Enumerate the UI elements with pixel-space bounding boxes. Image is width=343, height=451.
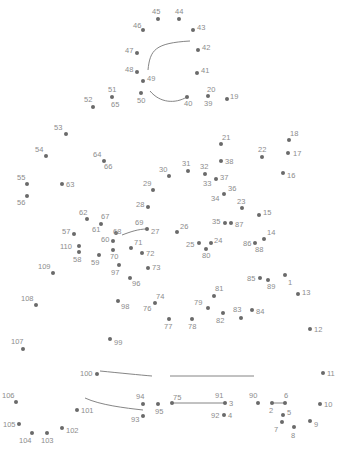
dot-109[interactable] <box>51 271 55 275</box>
dot-100[interactable] <box>95 372 99 376</box>
dot-29[interactable] <box>151 188 155 192</box>
dot-98[interactable] <box>116 299 120 303</box>
dot-22[interactable] <box>260 155 264 159</box>
dot-2[interactable] <box>270 401 274 405</box>
dot-94[interactable] <box>141 402 145 406</box>
dot-label-44: 44 <box>175 8 183 16</box>
dot-label-67: 67 <box>101 213 109 221</box>
dot-108[interactable] <box>34 303 38 307</box>
dot-3[interactable] <box>223 401 227 405</box>
dot-103[interactable] <box>45 431 49 435</box>
dot-38[interactable] <box>219 159 223 163</box>
dot-102[interactable] <box>60 426 64 430</box>
dot-24[interactable] <box>209 241 213 245</box>
dot-77[interactable] <box>167 317 171 321</box>
dot-87[interactable] <box>229 221 233 225</box>
dot-73[interactable] <box>146 266 150 270</box>
dot-16[interactable] <box>281 171 285 175</box>
dot-9[interactable] <box>308 419 312 423</box>
dot-5[interactable] <box>281 413 285 417</box>
dot-62[interactable] <box>85 217 89 221</box>
dot-4[interactable] <box>222 413 226 417</box>
dot-59[interactable] <box>97 253 101 257</box>
dot-20[interactable] <box>206 94 210 98</box>
dot-41[interactable] <box>195 71 199 75</box>
dot-19[interactable] <box>225 97 229 101</box>
dot-85[interactable] <box>258 276 262 280</box>
dot-1[interactable] <box>283 273 287 277</box>
dot-10[interactable] <box>318 402 322 406</box>
dot-79[interactable] <box>206 306 210 310</box>
dot-60[interactable] <box>111 239 115 243</box>
dot-6[interactable] <box>283 401 287 405</box>
dot-83[interactable] <box>239 316 243 320</box>
dot-57[interactable] <box>72 232 76 236</box>
dot-34[interactable] <box>222 192 226 196</box>
dot-label-23: 23 <box>237 198 245 206</box>
dot-97[interactable] <box>117 263 121 267</box>
dot-55[interactable] <box>25 182 29 186</box>
dot-42[interactable] <box>196 48 200 52</box>
dot-110[interactable] <box>77 244 81 248</box>
dot-107[interactable] <box>21 347 25 351</box>
dot-95[interactable] <box>156 402 160 406</box>
dot-7[interactable] <box>280 420 284 424</box>
dot-17[interactable] <box>286 151 290 155</box>
dot-74[interactable] <box>153 301 157 305</box>
dot-104[interactable] <box>30 431 34 435</box>
dot-18[interactable] <box>287 138 291 142</box>
dot-label-82: 82 <box>216 317 224 325</box>
dot-72[interactable] <box>140 251 144 255</box>
dot-49[interactable] <box>141 79 145 83</box>
dot-47[interactable] <box>135 51 139 55</box>
dot-label-11: 11 <box>327 370 335 378</box>
dot-99[interactable] <box>108 337 112 341</box>
dot-13[interactable] <box>296 292 300 296</box>
dot-52[interactable] <box>91 105 95 109</box>
dot-33[interactable] <box>214 177 218 181</box>
dot-21[interactable] <box>219 142 223 146</box>
dot-56[interactable] <box>25 194 29 198</box>
dot-105[interactable] <box>17 422 21 426</box>
dot-101[interactable] <box>75 408 79 412</box>
dot-label-86: 86 <box>243 240 251 248</box>
dot-44[interactable] <box>177 17 181 21</box>
dot-50[interactable] <box>139 91 143 95</box>
dot-51[interactable] <box>110 95 114 99</box>
dot-48[interactable] <box>135 70 139 74</box>
dot-label-75: 75 <box>173 394 181 402</box>
dot-106[interactable] <box>14 400 18 404</box>
dot-81[interactable] <box>212 294 216 298</box>
dot-8[interactable] <box>292 425 296 429</box>
dot-11[interactable] <box>321 371 325 375</box>
dot-45[interactable] <box>156 17 160 21</box>
dot-35[interactable] <box>223 221 227 225</box>
dot-53[interactable] <box>64 132 68 136</box>
drawn-line-3 <box>100 371 152 376</box>
dot-30[interactable] <box>167 174 171 178</box>
dot-25[interactable] <box>197 241 201 245</box>
dot-82[interactable] <box>221 311 225 315</box>
dot-27[interactable] <box>145 227 149 231</box>
dot-label-35: 35 <box>212 218 220 226</box>
dot-23[interactable] <box>240 206 244 210</box>
dot-58[interactable] <box>77 250 81 254</box>
dot-43[interactable] <box>191 28 195 32</box>
dot-28[interactable] <box>146 205 150 209</box>
dot-54[interactable] <box>44 154 48 158</box>
dot-71[interactable] <box>129 246 133 250</box>
dot-label-76: 76 <box>143 305 151 313</box>
dot-26[interactable] <box>175 230 179 234</box>
dot-32[interactable] <box>203 172 207 176</box>
dot-label-78: 78 <box>188 323 196 331</box>
dot-12[interactable] <box>308 327 312 331</box>
dot-14[interactable] <box>262 237 266 241</box>
dot-15[interactable] <box>257 213 261 217</box>
dot-46[interactable] <box>141 28 145 32</box>
dot-90[interactable] <box>256 401 260 405</box>
dot-78[interactable] <box>190 317 194 321</box>
dot-84[interactable] <box>250 308 254 312</box>
dot-63[interactable] <box>60 182 64 186</box>
dot-93[interactable] <box>141 414 145 418</box>
dot-31[interactable] <box>186 169 190 173</box>
